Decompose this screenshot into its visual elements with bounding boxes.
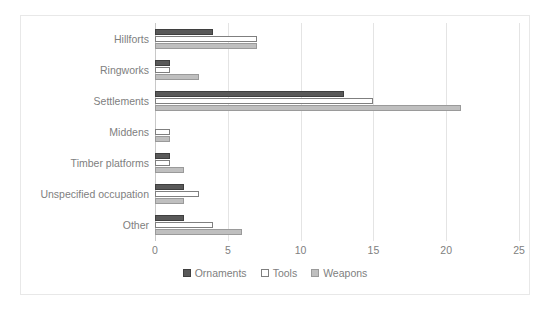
category-label: Middens	[109, 126, 149, 138]
bar-tools	[155, 98, 373, 104]
x-tick-label: 5	[225, 244, 231, 256]
legend-item-ornaments[interactable]: Ornaments	[183, 267, 247, 279]
legend-label: Weapons	[323, 267, 367, 279]
x-axis-tick-labels: 0510152025	[155, 244, 519, 260]
bar-weapons	[155, 136, 170, 142]
bar-tools	[155, 129, 170, 135]
bar-tools	[155, 222, 213, 228]
category-label: Hillforts	[114, 33, 149, 45]
x-tick-label: 10	[295, 244, 307, 256]
legend-item-tools[interactable]: Tools	[261, 267, 298, 279]
x-tick-label: 15	[368, 244, 380, 256]
legend-label: Tools	[273, 267, 298, 279]
bar-weapons	[155, 198, 184, 204]
gridline	[446, 23, 447, 241]
bar-ornaments	[155, 184, 184, 190]
bar-ornaments	[155, 60, 170, 66]
bar-weapons	[155, 167, 184, 173]
gridline	[228, 23, 229, 241]
y-axis-category-labels: HillfortsRingworksSettlementsMiddensTimb…	[21, 23, 149, 241]
x-tick-label: 0	[152, 244, 158, 256]
category-label: Settlements	[94, 95, 149, 107]
legend-item-weapons[interactable]: Weapons	[311, 267, 367, 279]
category-label: Unspecified occupation	[40, 188, 149, 200]
bar-weapons	[155, 43, 257, 49]
category-label: Ringworks	[100, 64, 149, 76]
gridline	[301, 23, 302, 241]
x-tick-label: 25	[513, 244, 525, 256]
category-label: Timber platforms	[71, 157, 149, 169]
plot-area	[155, 23, 519, 241]
chart-container: HillfortsRingworksSettlementsMiddensTimb…	[20, 15, 530, 295]
bar-tools	[155, 36, 257, 42]
bar-ornaments	[155, 91, 344, 97]
legend-swatch-icon	[311, 269, 319, 277]
legend-swatch-icon	[183, 269, 191, 277]
bar-weapons	[155, 74, 199, 80]
bar-tools	[155, 67, 170, 73]
bar-weapons	[155, 105, 461, 111]
legend-swatch-icon	[261, 269, 269, 277]
bar-ornaments	[155, 153, 170, 159]
bar-weapons	[155, 229, 242, 235]
gridline	[373, 23, 374, 241]
x-tick-label: 20	[440, 244, 452, 256]
bar-ornaments	[155, 29, 213, 35]
legend-label: Ornaments	[195, 267, 247, 279]
gridline	[519, 23, 520, 241]
chart-legend: OrnamentsToolsWeapons	[21, 267, 529, 279]
bar-tools	[155, 160, 170, 166]
bar-tools	[155, 191, 199, 197]
bar-ornaments	[155, 215, 184, 221]
category-label: Other	[123, 219, 149, 231]
